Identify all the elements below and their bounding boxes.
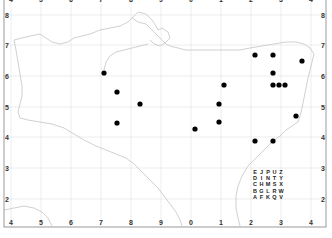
bottom-tick-label: 3 — [276, 219, 286, 226]
top-tick-label: 1 — [216, 0, 226, 3]
top-tick-label: 3 — [276, 0, 286, 3]
record-dot — [252, 138, 257, 143]
record-dot — [137, 101, 142, 106]
right-tick-label: 8 — [318, 12, 328, 19]
record-dot — [299, 58, 304, 63]
right-tick-label: 7 — [318, 42, 328, 49]
right-tick-label: 2 — [318, 196, 328, 203]
left-tick-label: 4 — [2, 134, 12, 141]
record-dot — [221, 82, 226, 87]
top-tick-label: 4 — [306, 0, 316, 3]
record-dot — [276, 82, 281, 87]
left-tick-label: 5 — [2, 104, 12, 111]
record-dot — [282, 82, 287, 87]
bottom-tick-label: 4 — [6, 219, 16, 226]
key-letter: K — [265, 194, 271, 200]
key-letter: F — [259, 194, 265, 200]
left-tick-label: 2 — [2, 196, 12, 203]
bottom-tick-label: 2 — [246, 219, 256, 226]
top-tick-label: 0 — [186, 0, 196, 3]
map-canvas — [0, 0, 332, 238]
distribution-map: 4 5 6 7 8 9 0 1 2 3 4 4 5 6 7 8 9 0 1 2 … — [0, 0, 332, 238]
bottom-tick-label: 5 — [36, 219, 46, 226]
record-dot — [270, 138, 275, 143]
left-tick-label: 3 — [2, 165, 12, 172]
left-tick-label: 6 — [2, 73, 12, 80]
top-tick-label: 8 — [126, 0, 136, 3]
key-letter: V — [278, 194, 284, 200]
key-letter: Q — [272, 194, 278, 200]
left-tick-label: 8 — [2, 12, 12, 19]
left-tick-label: 7 — [2, 42, 12, 49]
record-dot — [270, 70, 275, 75]
top-tick-label: 6 — [66, 0, 76, 3]
bottom-tick-label: 8 — [126, 219, 136, 226]
record-dot — [252, 52, 257, 57]
top-tick-label: 7 — [96, 0, 106, 3]
bottom-tick-label: 1 — [216, 219, 226, 226]
top-tick-label: 2 — [246, 0, 256, 3]
record-dot — [216, 119, 221, 124]
record-dot — [114, 120, 119, 125]
right-tick-label: 5 — [318, 104, 328, 111]
bottom-tick-label: 6 — [66, 219, 76, 226]
top-tick-label: 4 — [6, 0, 16, 3]
record-dot — [101, 70, 106, 75]
bottom-tick-label: 0 — [186, 219, 196, 226]
top-tick-label: 5 — [36, 0, 46, 3]
grid-letter-key: E J P U Z D I N T Y C H M S X B G L R W … — [252, 169, 284, 200]
right-tick-label: 3 — [318, 165, 328, 172]
record-dot — [192, 126, 197, 131]
record-dot — [114, 89, 119, 94]
record-dot — [270, 52, 275, 57]
right-tick-label: 6 — [318, 73, 328, 80]
bottom-tick-label: 9 — [156, 219, 166, 226]
record-dots — [101, 52, 304, 143]
key-letter: A — [252, 194, 258, 200]
record-dot — [270, 82, 275, 87]
top-tick-label: 9 — [156, 0, 166, 3]
record-dot — [216, 101, 221, 106]
record-dot — [293, 113, 298, 118]
bottom-tick-label: 4 — [306, 219, 316, 226]
bottom-tick-label: 7 — [96, 219, 106, 226]
right-tick-label: 4 — [318, 134, 328, 141]
